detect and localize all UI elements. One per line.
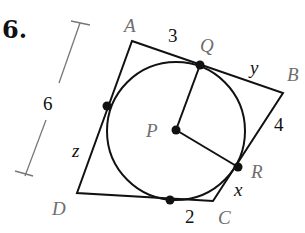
measure-c-bottom: 2	[185, 206, 195, 227]
vertex-label-c: C	[218, 207, 231, 228]
measure-rc: x	[233, 179, 243, 200]
vertex-label-b: B	[287, 64, 299, 85]
tangent-circle-diagram: 6. 6 A B C D P Q R 3 y 4 x 2 z	[0, 0, 305, 233]
center-point-p	[172, 126, 181, 135]
measure-aq: 3	[168, 25, 178, 46]
radius-pr	[176, 130, 238, 167]
point-label-q: Q	[200, 35, 214, 56]
radius-pq	[176, 65, 200, 130]
center-label-p: P	[145, 120, 158, 141]
point-label-r: R	[250, 161, 263, 182]
vertex-label-a: A	[122, 15, 136, 36]
tangent-point-q	[196, 61, 205, 70]
dimension-label-6: 6	[43, 93, 53, 114]
measure-da-side: z	[71, 140, 80, 161]
problem-number: 6.	[2, 15, 27, 44]
vertex-label-d: D	[51, 198, 66, 219]
measure-br: 4	[274, 114, 284, 135]
tangent-point-left	[103, 102, 112, 111]
tangent-point-r	[234, 163, 243, 172]
tangent-point-bottom	[166, 196, 175, 205]
measure-qb: y	[248, 57, 259, 78]
